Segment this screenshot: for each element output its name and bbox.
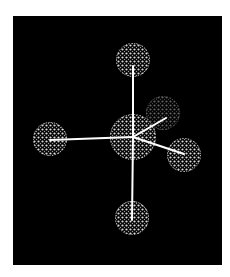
- molecule-viewport[interactable]: [13, 16, 222, 265]
- ligand-atom-front-right: [167, 138, 201, 172]
- molecule-rendering: [13, 16, 222, 265]
- bond-bottom: [132, 137, 133, 220]
